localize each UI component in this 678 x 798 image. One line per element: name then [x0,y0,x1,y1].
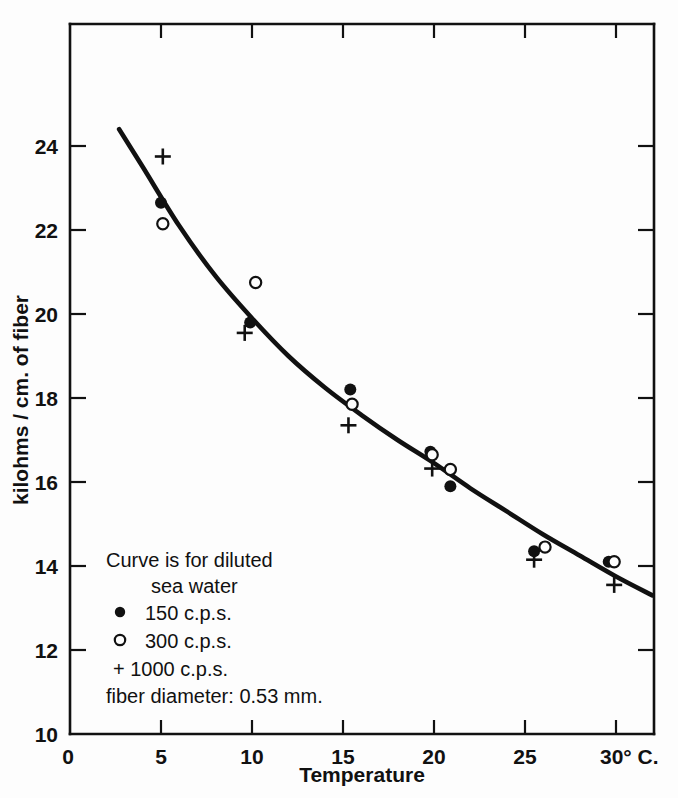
legend-footnote: fiber diameter: 0.53 mm. [106,685,323,707]
data-point-open-circle [347,399,358,410]
y-tick-label-16: 16 [35,471,58,494]
y-tick-label-20: 20 [35,303,58,326]
y-axis-title: kilohms / cm. of fiber [9,295,32,505]
data-point-open-circle [445,464,456,475]
data-point-open-circle [250,277,261,288]
legend-curve-line2: sea water [151,575,238,597]
data-point-open-circle [609,556,620,567]
x-tick-label-30: 30° C. [600,745,659,768]
y-tick-label-14: 14 [35,555,59,578]
y-tick-label-12: 12 [35,639,58,662]
data-point-filled-circle [155,197,167,209]
legend-marker-open-circle [115,635,125,645]
x-tick-label-25: 25 [513,745,537,768]
legend-curve-line1: Curve is for diluted [106,549,273,571]
x-tick-label-5: 5 [155,745,167,768]
y-tick-label-22: 22 [35,219,58,242]
data-point-open-circle [427,449,438,460]
data-point-filled-circle [344,384,356,396]
legend-label-150: 150 c.p.s. [145,602,232,624]
x-tick-label-20: 20 [422,745,445,768]
legend-label-1000: + 1000 c.p.s. [113,658,228,680]
legend-label-300: 300 c.p.s. [145,630,232,652]
data-point-open-circle [157,218,168,229]
chart-figure: 051015202530° C. 1012141618202224 Temper… [0,0,678,798]
y-tick-label-10: 10 [35,723,58,746]
data-point-filled-circle [444,480,456,492]
x-tick-label-0: 0 [62,745,74,768]
scatter-plot: 051015202530° C. 1012141618202224 Temper… [0,0,678,798]
data-point-open-circle [539,542,550,553]
x-axis-title: Temperature [299,763,425,786]
y-tick-label-24: 24 [35,135,59,158]
x-tick-label-10: 10 [240,745,263,768]
legend-marker-filled-circle [115,607,125,617]
y-tick-label-18: 18 [35,387,59,410]
